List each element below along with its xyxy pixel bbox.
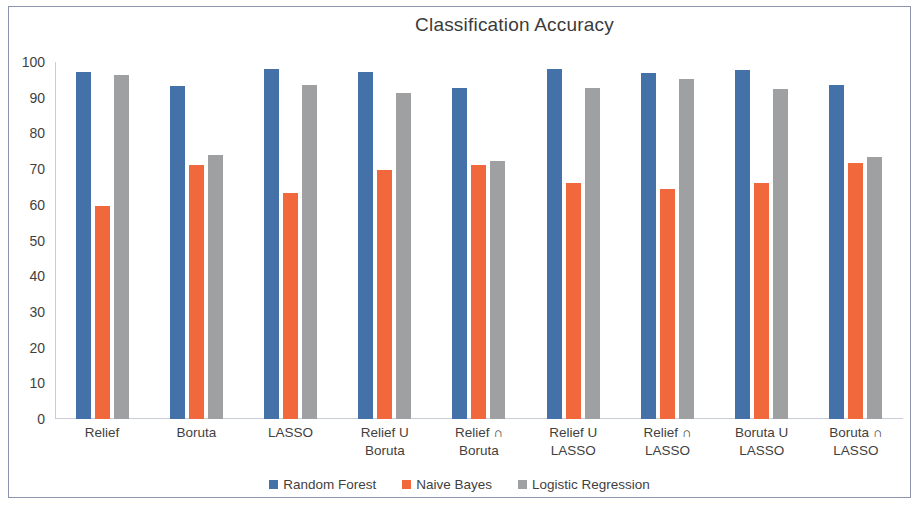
bar-random-forest[interactable] — [641, 73, 656, 419]
legend-label: Logistic Regression — [532, 477, 650, 492]
bar-random-forest[interactable] — [76, 72, 91, 419]
bar-logistic-regression[interactable] — [585, 88, 600, 419]
bar-random-forest[interactable] — [735, 70, 750, 419]
bar-group — [715, 62, 809, 419]
bar-group — [55, 62, 149, 419]
bar-group — [243, 62, 337, 419]
bar-random-forest[interactable] — [170, 86, 185, 419]
legend-swatch-icon — [402, 480, 411, 489]
legend-label: Naive Bayes — [416, 477, 492, 492]
bar-naive-bayes[interactable] — [566, 183, 581, 419]
y-tick-60: 60 — [29, 197, 45, 213]
bar-random-forest[interactable] — [264, 69, 279, 419]
y-tick-30: 30 — [29, 304, 45, 320]
x-axis-tick-labels: ReliefBorutaLASSORelief U BorutaRelief ∩… — [55, 424, 903, 472]
x-tick-label: Boruta — [149, 424, 243, 442]
bar-naive-bayes[interactable] — [660, 189, 675, 419]
x-tick-label: LASSO — [243, 424, 337, 442]
legend-item[interactable]: Logistic Regression — [518, 477, 650, 492]
y-tick-10: 10 — [29, 375, 45, 391]
y-tick-70: 70 — [29, 161, 45, 177]
y-tick-20: 20 — [29, 340, 45, 356]
bar-naive-bayes[interactable] — [754, 183, 769, 419]
plot-area: 0102030405060708090100 — [55, 62, 903, 419]
bar-group — [338, 62, 432, 419]
bar-logistic-regression[interactable] — [302, 85, 317, 419]
chart-container: Classification Accuracy 0102030405060708… — [0, 0, 919, 510]
y-tick-40: 40 — [29, 268, 45, 284]
bar-logistic-regression[interactable] — [867, 157, 882, 419]
x-tick-label: Relief ∩ Boruta — [432, 424, 526, 460]
bar-naive-bayes[interactable] — [848, 163, 863, 419]
bar-random-forest[interactable] — [452, 88, 467, 419]
legend-label: Random Forest — [283, 477, 376, 492]
x-tick-label: Relief ∩ LASSO — [620, 424, 714, 460]
bar-logistic-regression[interactable] — [396, 93, 411, 419]
bar-naive-bayes[interactable] — [283, 193, 298, 419]
y-tick-50: 50 — [29, 233, 45, 249]
bar-logistic-regression[interactable] — [773, 89, 788, 419]
bar-random-forest[interactable] — [547, 69, 562, 419]
x-tick-label: Boruta U LASSO — [715, 424, 809, 460]
bar-logistic-regression[interactable] — [490, 161, 505, 419]
bar-group — [526, 62, 620, 419]
legend-swatch-icon — [518, 480, 527, 489]
bar-naive-bayes[interactable] — [95, 206, 110, 419]
y-tick-100: 100 — [22, 54, 45, 70]
bar-naive-bayes[interactable] — [377, 170, 392, 419]
bar-random-forest[interactable] — [829, 85, 844, 420]
bar-group — [149, 62, 243, 419]
chart-legend: Random ForestNaive BayesLogistic Regress… — [0, 477, 919, 492]
x-tick-label: Relief — [55, 424, 149, 442]
x-tick-label: Relief U LASSO — [526, 424, 620, 460]
legend-item[interactable]: Naive Bayes — [402, 477, 492, 492]
bar-logistic-regression[interactable] — [679, 79, 694, 419]
bar-logistic-regression[interactable] — [114, 75, 129, 419]
y-tick-0: 0 — [37, 411, 45, 427]
bar-naive-bayes[interactable] — [471, 165, 486, 419]
bar-group — [620, 62, 714, 419]
chart-title: Classification Accuracy — [0, 14, 919, 36]
y-tick-90: 90 — [29, 90, 45, 106]
legend-item[interactable]: Random Forest — [269, 477, 376, 492]
bar-group — [432, 62, 526, 419]
y-tick-80: 80 — [29, 125, 45, 141]
legend-swatch-icon — [269, 480, 278, 489]
x-tick-label: Boruta ∩ LASSO — [809, 424, 903, 460]
bar-random-forest[interactable] — [358, 72, 373, 419]
bar-group — [809, 62, 903, 419]
x-tick-label: Relief U Boruta — [338, 424, 432, 460]
bar-logistic-regression[interactable] — [208, 155, 223, 419]
bar-naive-bayes[interactable] — [189, 165, 204, 419]
